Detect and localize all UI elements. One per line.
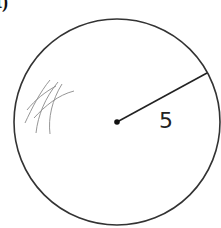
- pencil-scribble: [25, 80, 74, 134]
- radius-label: 5: [159, 108, 173, 133]
- circle-diagram: 5: [0, 0, 221, 228]
- center-point: [114, 119, 120, 125]
